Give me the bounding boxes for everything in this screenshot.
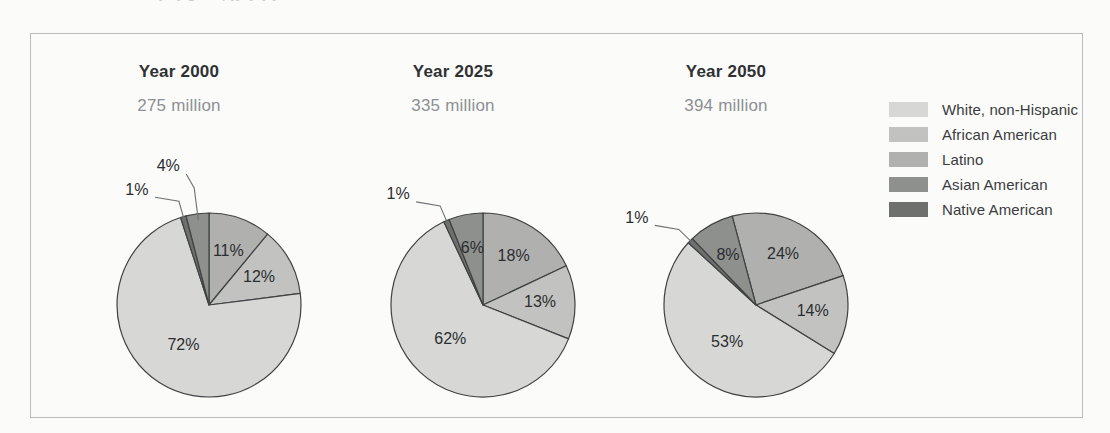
cropped-caption-above-frame: ajnlj g ... pjy y j y bbox=[0, 0, 1110, 14]
pie-slice-label: 12% bbox=[243, 268, 275, 285]
legend-swatch-asian-american bbox=[889, 177, 928, 192]
legend-swatch-native-american bbox=[889, 202, 928, 217]
cropped-caption-text: ajnlj g ... pjy y j y bbox=[150, 0, 281, 3]
pie-slice-label: 24% bbox=[767, 245, 799, 262]
chart-frame: Year 2000 275 million Year 2025 335 mill… bbox=[30, 33, 1083, 418]
legend-label-white-non-hispanic: White, non-Hispanic bbox=[942, 99, 1078, 120]
pie-callout-leader-line bbox=[186, 174, 198, 220]
pie-subtitle-1: 335 million bbox=[313, 96, 593, 116]
legend-label-asian-american: Asian American bbox=[942, 174, 1048, 195]
legend-swatch-latino bbox=[889, 152, 928, 167]
pie-title-2: Year 2050 bbox=[586, 62, 866, 82]
pie-title-0: Year 2000 bbox=[39, 62, 319, 82]
pie-chart-year-2050: 24%14%53%1%8% bbox=[578, 119, 878, 409]
pie-slice-label: 8% bbox=[716, 246, 739, 263]
pie-slice-label: 72% bbox=[167, 336, 199, 353]
pie-slice-label: 13% bbox=[524, 293, 556, 310]
pie-callout-label: 4% bbox=[157, 157, 180, 174]
legend-label-native-american: Native American bbox=[942, 199, 1053, 220]
legend-swatch-african-american bbox=[889, 127, 928, 142]
legend-swatch-white-non-hispanic bbox=[889, 102, 928, 117]
pie-slice-label: 14% bbox=[797, 302, 829, 319]
pie-subtitle-0: 275 million bbox=[39, 96, 319, 116]
pie-chart-year-2000: 11%12%72%1%4% bbox=[31, 119, 331, 409]
pie-slice-label: 62% bbox=[434, 330, 466, 347]
pie-slice-label: 18% bbox=[498, 247, 530, 264]
pie-slice-label: 6% bbox=[461, 239, 484, 256]
pie-title-1: Year 2025 bbox=[313, 62, 593, 82]
legend-label-latino: Latino bbox=[942, 149, 983, 170]
pie-callout-label: 1% bbox=[625, 209, 648, 226]
pie-slice-label: 53% bbox=[711, 333, 743, 350]
pie-slice-label: 11% bbox=[213, 242, 244, 259]
chart-page: ajnlj g ... pjy y j y Year 2000 275 mill… bbox=[0, 0, 1110, 433]
pie-subtitle-2: 394 million bbox=[586, 96, 866, 116]
pie-callout-label: 1% bbox=[125, 181, 148, 198]
pie-chart-year-2025: 18%13%62%1%6% bbox=[305, 119, 605, 409]
pie-callout-label: 1% bbox=[387, 185, 410, 202]
legend-label-african-american: African American bbox=[942, 124, 1057, 145]
